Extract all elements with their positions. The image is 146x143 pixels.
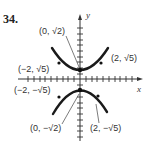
y-axis-label: y <box>86 10 90 20</box>
point-lower-left <box>57 95 60 98</box>
point-vertex-top <box>78 68 82 72</box>
label-point-0-sqrt2: (0, √2) <box>39 26 65 36</box>
label-point-neg2-sqrt5: (−2, √5) <box>18 64 49 74</box>
label-point-0-neg-sqrt2: (0, −√2) <box>30 123 61 133</box>
leader-line-top <box>66 36 79 67</box>
label-point-2-neg-sqrt5: (2, −√5) <box>90 123 121 133</box>
point-lower-right <box>96 94 99 97</box>
x-axis-label: x <box>137 84 141 94</box>
label-point-2-sqrt5: (2, √5) <box>111 53 137 63</box>
point-upper-left <box>57 61 60 64</box>
leader-line-bottom-right <box>96 104 99 123</box>
point-upper-right <box>99 61 102 64</box>
point-vertex-bottom <box>78 88 82 92</box>
label-point-neg2-neg-sqrt5: (−2, −√5) <box>14 85 50 95</box>
y-axis <box>77 14 83 141</box>
